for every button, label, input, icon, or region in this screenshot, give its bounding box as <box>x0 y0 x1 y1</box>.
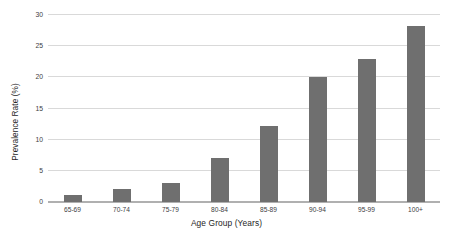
bar[interactable] <box>309 77 327 202</box>
x-axis-tick-label: 80-84 <box>211 206 228 213</box>
bar[interactable] <box>260 126 278 202</box>
bar[interactable] <box>211 158 229 202</box>
bar-slot: 65-69 <box>48 15 97 202</box>
bar-chart-figure: Prevalence Rate (%) 051015202530 65-6970… <box>0 0 453 244</box>
y-axis-tick-label: 5 <box>39 166 43 173</box>
y-axis-tick-label: 10 <box>35 135 43 142</box>
bar[interactable] <box>407 26 425 202</box>
y-axis-tick-label: 15 <box>35 104 43 111</box>
plot-area: 051015202530 65-6970-7475-7980-8485-8990… <box>48 15 440 202</box>
bar[interactable] <box>358 59 376 202</box>
y-axis-tick-label: 0 <box>39 198 43 205</box>
bar-slot: 100+ <box>391 15 440 202</box>
bar[interactable] <box>162 183 180 202</box>
bar[interactable] <box>64 195 82 202</box>
x-axis-line <box>48 202 440 203</box>
x-axis-tick-label: 85-89 <box>260 206 277 213</box>
bar[interactable] <box>113 189 131 202</box>
y-axis-tick-label: 30 <box>35 11 43 18</box>
bar-slot: 80-84 <box>195 15 244 202</box>
bar-slot: 85-89 <box>244 15 293 202</box>
x-axis-tick-label: 65-69 <box>64 206 81 213</box>
bar-slot: 75-79 <box>146 15 195 202</box>
bar-slot: 95-99 <box>342 15 391 202</box>
x-axis-title: Age Group (Years) <box>0 218 453 228</box>
x-axis-tick-label: 95-99 <box>358 206 375 213</box>
x-axis-tick-label: 70-74 <box>113 206 130 213</box>
x-axis-tick-label: 100+ <box>408 206 423 213</box>
bars-container: 65-6970-7475-7980-8485-8990-9495-99100+ <box>48 15 440 202</box>
y-axis-tick-label: 20 <box>35 73 43 80</box>
bar-slot: 70-74 <box>97 15 146 202</box>
bar-slot: 90-94 <box>293 15 342 202</box>
y-axis-tick-label: 25 <box>35 42 43 49</box>
x-axis-tick-label: 90-94 <box>309 206 326 213</box>
x-axis-tick-label: 75-79 <box>162 206 179 213</box>
